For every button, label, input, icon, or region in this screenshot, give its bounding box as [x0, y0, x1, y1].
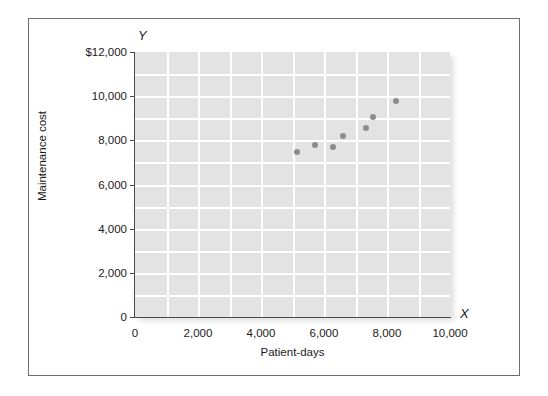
scatter-chart: 02,0004,0006,0008,00010,000$12,000 02,00… [0, 0, 548, 396]
x-axis-symbol: X [460, 306, 469, 321]
x-axis-title: Patient-days [135, 346, 450, 358]
x-axis-tick-labels: 02,0004,0006,0008,00010,000 [0, 0, 548, 396]
y-axis-title: Maintenance cost [36, 76, 48, 236]
y-axis-symbol: Y [138, 28, 147, 43]
x-axis-tick-label: 10,000 [410, 327, 490, 339]
